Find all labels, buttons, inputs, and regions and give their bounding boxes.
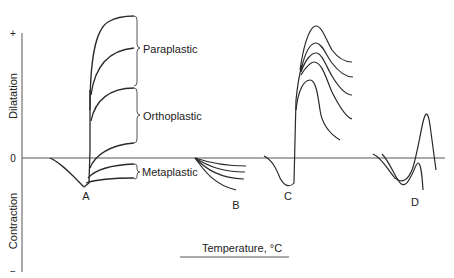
y-tick-minus: −	[10, 266, 16, 277]
label-a: A	[82, 190, 90, 202]
curve-c-5	[296, 80, 340, 140]
brace-paraplastic	[134, 16, 140, 86]
y-label-dilatation: Dilatation	[7, 73, 19, 119]
label-metaplastic: Metaplastic	[142, 166, 198, 178]
brace-orthoplastic	[134, 88, 140, 143]
curve-c-dip	[264, 100, 296, 186]
braces	[134, 16, 140, 179]
y-tick-zero: 0	[10, 153, 16, 164]
x-axis-label: Temperature, °C	[202, 242, 282, 254]
curve-group-b	[195, 158, 246, 190]
curve-c-4	[301, 62, 352, 119]
dilatometric-curves-diagram: + 0 − Dilatation Contraction Temperature…	[0, 0, 454, 278]
y-label-contraction: Contraction	[7, 193, 19, 249]
curve-group-c	[264, 26, 353, 186]
curve-d-2	[382, 154, 423, 190]
label-paraplastic: Paraplastic	[143, 43, 198, 55]
curve-d-1	[373, 114, 436, 181]
curve-a-orthoplastic-1	[91, 88, 134, 121]
y-tick-plus: +	[10, 28, 16, 39]
label-b: B	[232, 199, 239, 211]
curve-a-metaplastic-2	[86, 178, 134, 183]
curve-group-a	[50, 16, 134, 187]
curve-c-2	[301, 43, 353, 77]
label-orthoplastic: Orthoplastic	[143, 110, 202, 122]
label-d: D	[411, 196, 419, 208]
curve-a-dip	[50, 158, 84, 187]
curve-a-rise-line	[84, 90, 90, 187]
brace-metaplastic	[134, 164, 140, 179]
curve-a-paraplastic-1	[90, 16, 134, 110]
curve-a-metaplastic-1	[88, 164, 134, 178]
curve-group-d	[373, 114, 436, 190]
label-c: C	[284, 190, 292, 202]
